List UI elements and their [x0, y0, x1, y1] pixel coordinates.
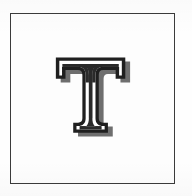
letter-t-glyph	[52, 57, 133, 141]
plate-border	[10, 13, 175, 184]
glyph-area	[11, 14, 174, 183]
letter-plate-page: T	[0, 0, 192, 196]
glyph-stem	[89, 71, 92, 122]
